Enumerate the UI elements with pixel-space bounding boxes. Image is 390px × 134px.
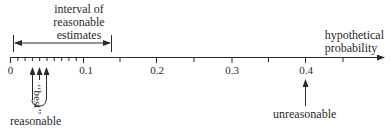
unreasonable-label: unreasonable <box>273 108 336 121</box>
tick-label-0-3: 0.3 <box>225 64 239 76</box>
tick-label-0-2: 0.2 <box>150 64 164 76</box>
tick-label-0-1: 0.1 <box>79 64 93 76</box>
axis-label: hypothetical probability <box>325 29 384 55</box>
interval-label: interval of reasonable estimates <box>36 3 122 42</box>
tick-label-0: 0 <box>8 64 14 76</box>
interval-label-line-3: estimates <box>36 29 122 42</box>
axis <box>10 57 384 63</box>
reasonable-label: reasonable <box>10 115 61 128</box>
best-label: ‘‘best’’ <box>31 84 44 115</box>
axis-label-line-2: probability <box>325 42 384 55</box>
tick-label-0-4: 0.4 <box>299 64 313 76</box>
